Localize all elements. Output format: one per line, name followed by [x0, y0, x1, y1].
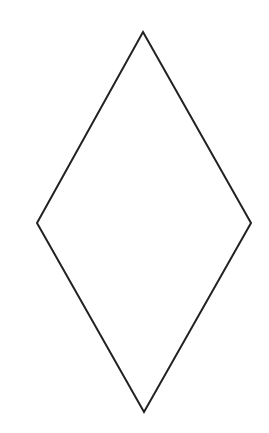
rhombus-diagram	[0, 0, 269, 433]
diagram-canvas	[0, 0, 269, 433]
rhombus-shape	[37, 32, 251, 412]
